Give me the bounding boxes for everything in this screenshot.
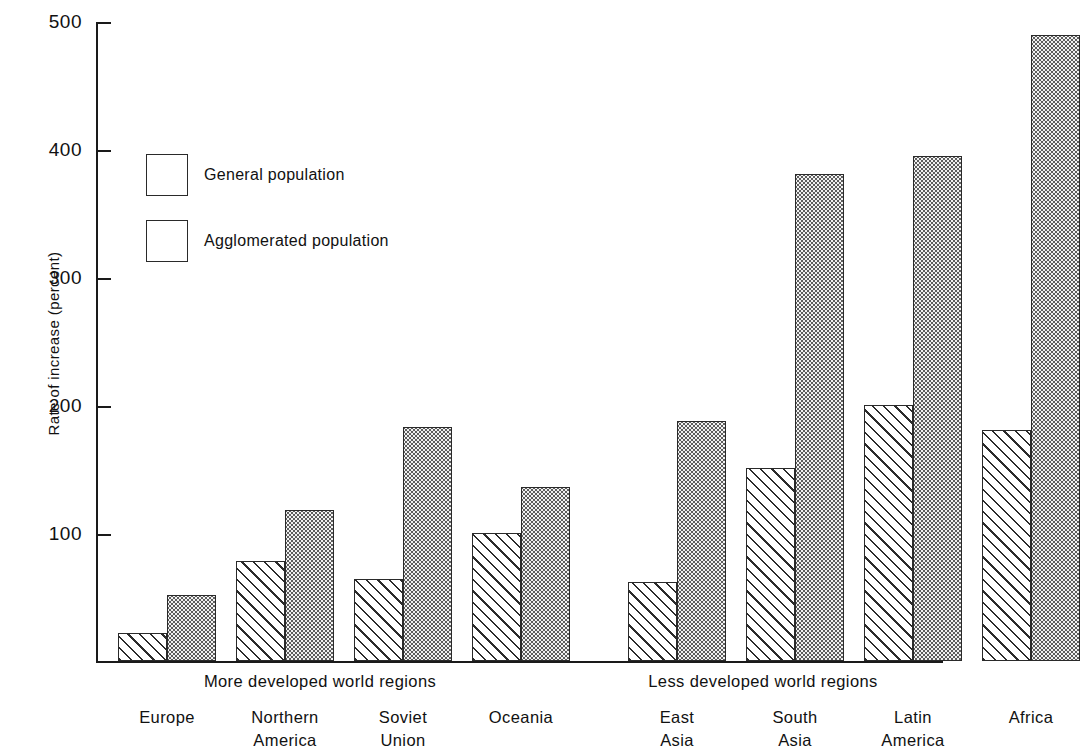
legend-swatch-dots-icon [146,220,188,262]
y-tick-label-300: 300 [30,267,82,289]
bar-south-asia-general [746,468,795,661]
bar-northern-america-agglomerated [285,510,334,661]
category-label-africa: Africa [961,706,1084,729]
bar-south-asia-agglomerated [795,174,844,661]
bar-northern-america-general [236,561,285,661]
y-axis-title: Rate of increase (percent) [45,209,62,479]
legend-label-general-population: General population [204,166,345,184]
legend: General population Agglomerated populati… [146,152,389,284]
category-label-oceania: Oceania [451,706,591,729]
bar-soviet-union-agglomerated [403,427,452,661]
category-label-africa-line1: Africa [961,706,1084,729]
legend-item-general-population: General population [146,152,389,198]
plot-area [98,22,943,661]
category-label-latin-america-line2: America [843,729,983,752]
bar-latin-america-general [864,405,913,661]
bar-europe-general [118,633,167,661]
bar-oceania-general [472,533,521,661]
legend-item-agglomerated-population: Agglomerated population [146,218,389,264]
bar-soviet-union-general [354,579,403,661]
group-label-less-developed: Less developed world regions [608,672,918,691]
y-tick-label-200: 200 [30,395,82,417]
bar-east-asia-general [628,582,677,661]
group-label-more-developed: More developed world regions [165,672,475,691]
legend-label-agglomerated-population: Agglomerated population [204,232,389,250]
bar-east-asia-agglomerated [677,421,726,661]
y-tick-label-100: 100 [30,523,82,545]
category-label-soviet-union-line2: Union [333,729,473,752]
bar-latin-america-agglomerated [913,156,962,661]
bar-europe-agglomerated [167,595,216,661]
category-label-oceania-line1: Oceania [451,706,591,729]
bar-africa-general [982,430,1031,661]
bar-oceania-agglomerated [521,487,570,661]
y-tick-label-400: 400 [30,139,82,161]
legend-swatch-hatch-icon [146,154,188,196]
y-tick-label-500: 500 [30,11,82,33]
x-axis-line [96,661,943,663]
bar-africa-agglomerated [1031,35,1080,661]
